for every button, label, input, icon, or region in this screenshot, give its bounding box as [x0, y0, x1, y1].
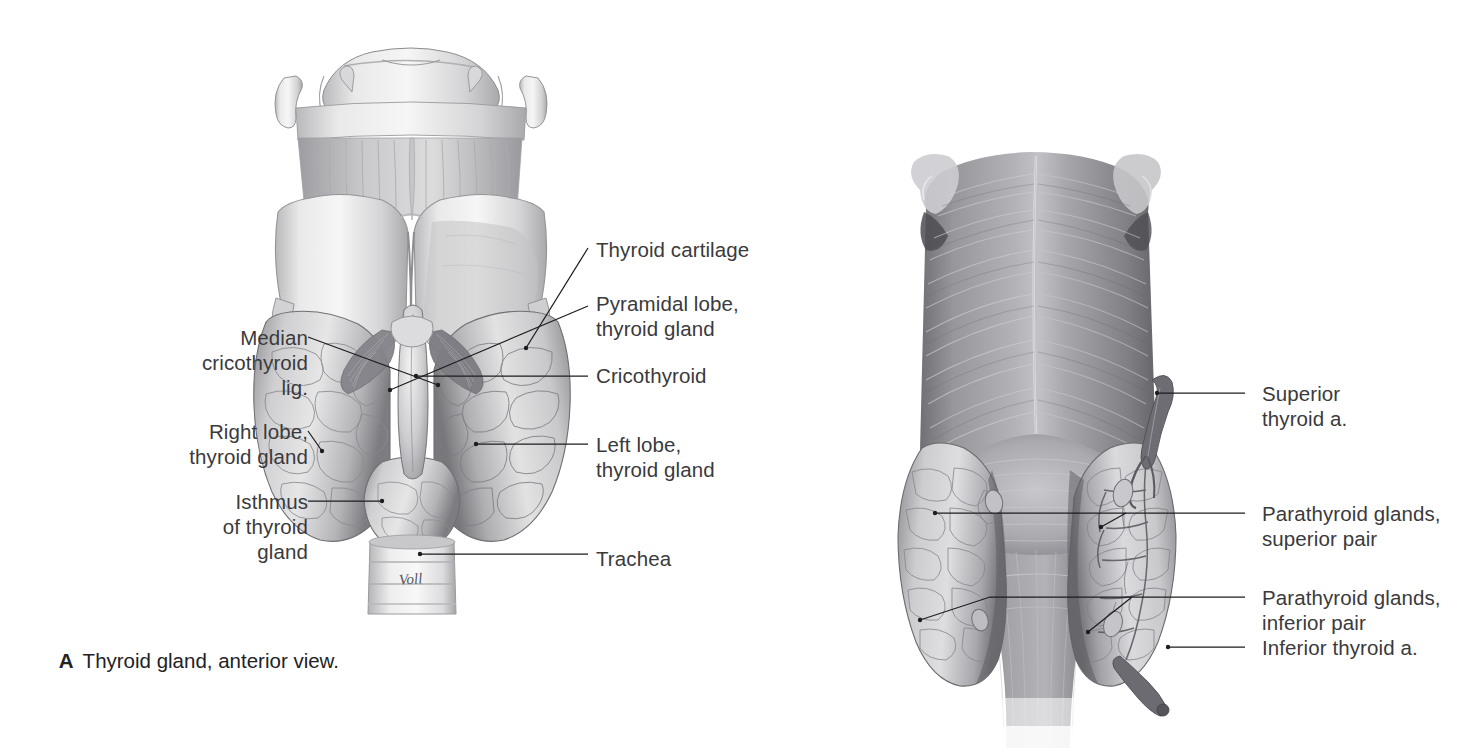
label-pyramidal-lobe-thyroid-gland: Pyramidal lobe, thyroid gland — [596, 291, 739, 341]
figure-a-caption-letter: A — [59, 649, 74, 672]
label-trachea: Trachea — [596, 546, 671, 571]
label-left-lobe-thyroid-gland: Left lobe, thyroid gland — [596, 432, 715, 482]
artist-signature: Voll — [398, 570, 422, 589]
leader-trachea — [418, 552, 588, 556]
label-inferior-thyroid-artery: Inferior thyroid a. — [1262, 635, 1418, 660]
figure-a-caption: AThyroid gland, anterior view. — [36, 622, 339, 700]
label-thyroid-cartilage: Thyroid cartilage — [596, 237, 749, 262]
label-median-cricothyroid-lig: Median cricothyroid lig. — [58, 325, 308, 400]
figure-a-caption-text: Thyroid gland, anterior view. — [83, 649, 339, 672]
label-cricothyroid: Cricothyroid — [596, 363, 707, 388]
label-parathyroid-glands-superior-pair: Parathyroid glands, superior pair — [1262, 501, 1441, 551]
leader-superior-thyroid-artery — [1155, 391, 1245, 395]
label-parathyroid-glands-inferior-pair: Parathyroid glands, inferior pair — [1262, 585, 1441, 635]
figure-b-leaders — [1060, 380, 1290, 670]
illustration-page: Voll — [0, 0, 1483, 748]
leader-inferior-thyroid-artery — [1166, 645, 1245, 649]
label-isthmus-of-thyroid-gland: Isthmus of thyroid gland — [58, 489, 308, 564]
figure-a-leaders-left — [330, 335, 550, 525]
label-superior-thyroid-artery: Superior thyroid a. — [1262, 381, 1347, 431]
label-right-lobe-thyroid-gland: Right lobe, thyroid gland — [58, 419, 308, 469]
